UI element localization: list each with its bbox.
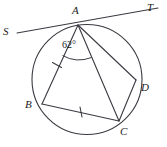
secant-line-st — [17, 8, 158, 33]
point-label-a: A — [72, 5, 79, 16]
chord-ab — [42, 25, 78, 104]
point-label-s: S — [3, 26, 9, 37]
angle-measure-bac: 62° — [62, 40, 76, 50]
point-label-b: B — [25, 99, 32, 110]
point-label-d: D — [141, 82, 149, 93]
geometry-canvas — [0, 0, 167, 147]
circle-outline — [32, 25, 142, 135]
chord-ac — [78, 25, 119, 121]
chord-cd — [119, 80, 136, 121]
point-label-c: C — [120, 126, 127, 137]
point-label-t: T — [147, 2, 153, 13]
chord-bc — [42, 104, 119, 121]
angle-arc-bac — [63, 56, 92, 60]
chord-ad — [78, 25, 136, 80]
geometry-figure: A B C D S T 62° — [0, 0, 167, 147]
